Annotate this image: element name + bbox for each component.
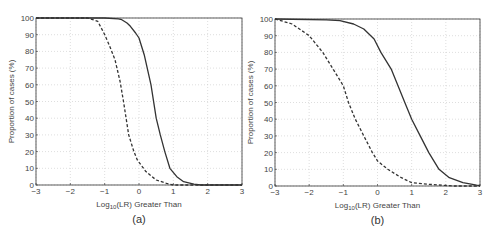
x-axis-label: Log10(LR) Greater Than xyxy=(335,201,420,211)
y-tick-label: 100 xyxy=(260,15,274,24)
y-tick-label: 80 xyxy=(25,47,34,56)
y-tick-label: 10 xyxy=(25,164,34,173)
figure-caption: (a) xyxy=(132,213,145,225)
x-tick-label: 1 xyxy=(409,188,414,197)
x-tick-label: −2 xyxy=(305,188,315,197)
x-tick-label: 0 xyxy=(137,187,142,196)
figure-caption: (b) xyxy=(371,214,384,226)
chart-a: −3−2−101230102030405060708090100Log10(LR… xyxy=(7,14,245,225)
y-tick-label: 30 xyxy=(264,132,273,141)
y-tick-label: 70 xyxy=(25,64,34,73)
y-tick-label: 70 xyxy=(264,65,273,74)
x-tick-label: 3 xyxy=(240,187,245,196)
x-tick-label: 3 xyxy=(478,188,483,197)
x-axis-label: Log10(LR) Greater Than xyxy=(96,200,181,210)
x-tick-label: −1 xyxy=(100,187,110,196)
x-tick-label: 1 xyxy=(171,187,176,196)
x-tick-label: −1 xyxy=(339,188,349,197)
y-tick-label: 50 xyxy=(25,98,34,107)
y-tick-label: 90 xyxy=(25,31,34,40)
y-tick-label: 80 xyxy=(264,48,273,57)
x-tick-label: 0 xyxy=(375,188,380,197)
y-tick-label: 0 xyxy=(30,181,35,190)
x-tick-label: −2 xyxy=(66,187,76,196)
y-tick-label: 60 xyxy=(264,82,273,91)
y-axis-label: Proportion of cases (%) xyxy=(7,59,16,143)
y-tick-label: 90 xyxy=(264,32,273,41)
y-tick-label: 10 xyxy=(264,165,273,174)
y-tick-label: 40 xyxy=(25,114,34,123)
y-tick-label: 100 xyxy=(21,14,35,23)
figure: −3−2−101230102030405060708090100Log10(LR… xyxy=(0,0,493,236)
y-tick-label: 20 xyxy=(264,149,273,158)
y-tick-label: 0 xyxy=(269,182,274,191)
y-tick-label: 60 xyxy=(25,81,34,90)
x-tick-label: 2 xyxy=(205,187,210,196)
x-tick-label: 2 xyxy=(444,188,449,197)
y-tick-label: 30 xyxy=(25,131,34,140)
chart-b: −3−2−101230102030405060708090100Log10(LR… xyxy=(246,15,483,226)
y-tick-label: 40 xyxy=(264,115,273,124)
y-tick-label: 50 xyxy=(264,99,273,108)
y-axis-label: Proportion of cases (%) xyxy=(246,60,255,144)
y-tick-label: 20 xyxy=(25,148,34,157)
